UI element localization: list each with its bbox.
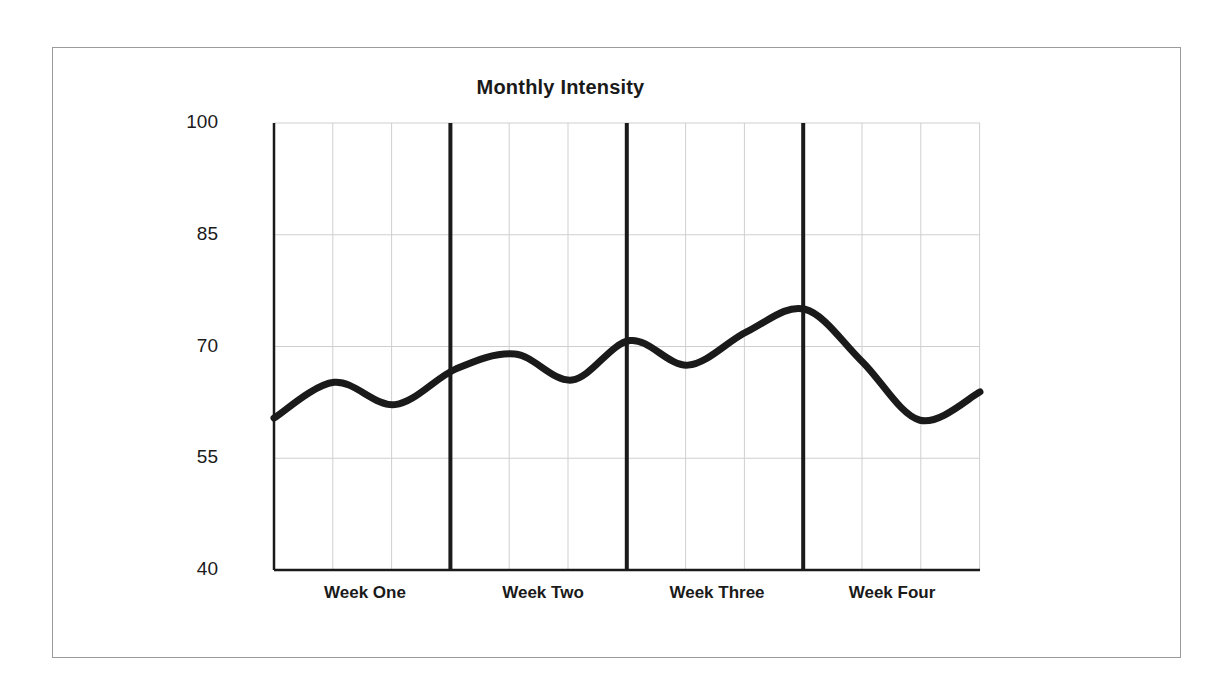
figure-page: Monthly Intensity Relative Training Inte… xyxy=(0,0,1232,693)
plot-area xyxy=(0,0,1232,693)
